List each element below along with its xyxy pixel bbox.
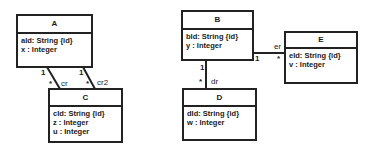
class-c[interactable]: C cId: String {id} z : Integer u : Integ…	[48, 88, 123, 143]
multiplicity-dr-from: 1	[200, 64, 204, 72]
attribute: aId: String {id}	[21, 36, 91, 45]
class-d-name: D	[184, 90, 255, 107]
class-b[interactable]: B bId: String {id} y : Integer	[181, 10, 254, 61]
attribute: u : Integer	[53, 127, 121, 136]
multiplicity-cr2-from: 1	[79, 69, 83, 77]
role-er: er	[274, 43, 281, 51]
role-dr: dr	[211, 78, 218, 86]
multiplicity-dr-to: *	[199, 78, 202, 86]
multiplicity-cr2-to: *	[86, 80, 89, 88]
class-c-name: C	[50, 90, 121, 107]
class-e-attributes: eId: String {id} v : Integer	[286, 49, 356, 69]
attribute: dId: String {id}	[187, 109, 255, 118]
attribute: z : Integer	[53, 118, 121, 127]
multiplicity-cr-from: 1	[41, 69, 45, 77]
attribute: y : Integer	[186, 41, 252, 50]
class-e-name: E	[286, 33, 356, 49]
role-cr: cr	[61, 80, 68, 88]
class-b-attributes: bId: String {id} y : Integer	[183, 30, 252, 50]
attribute: cId: String {id}	[53, 109, 121, 118]
class-d-attributes: dId: String {id} w : Integer	[184, 107, 255, 127]
multiplicity-er-from: 1	[255, 55, 259, 63]
attribute: w : Integer	[187, 118, 255, 127]
class-a[interactable]: A aId: String {id} x : Integer	[16, 14, 93, 68]
attribute: x : Integer	[21, 45, 91, 54]
class-b-name: B	[183, 12, 252, 30]
multiplicity-cr-to: *	[49, 80, 52, 88]
class-c-attributes: cId: String {id} z : Integer u : Integer	[50, 107, 121, 136]
class-d[interactable]: D dId: String {id} w : Integer	[182, 88, 257, 141]
attribute: eId: String {id}	[289, 51, 356, 60]
class-a-attributes: aId: String {id} x : Integer	[18, 34, 91, 54]
class-a-name: A	[18, 16, 91, 34]
class-e[interactable]: E eId: String {id} v : Integer	[284, 31, 358, 84]
attribute: v : Integer	[289, 60, 356, 69]
multiplicity-er-to: *	[277, 55, 280, 63]
role-cr2: cr2	[97, 79, 108, 87]
attribute: bId: String {id}	[186, 32, 252, 41]
